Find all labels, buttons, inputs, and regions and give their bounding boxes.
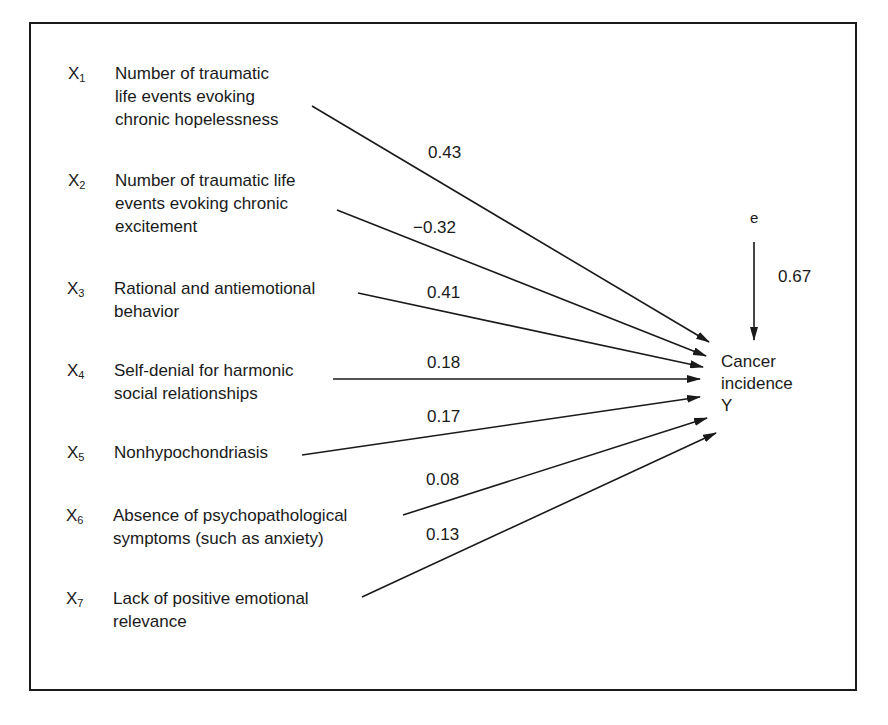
predictor-description: Absence of psychopathological symptoms (… (113, 504, 413, 550)
predictor-symbol: X1 (68, 62, 85, 90)
arrow-x6 (403, 418, 707, 515)
predictor-description: Self-denial for harmonic social relation… (114, 359, 414, 405)
predictor-symbol: X2 (68, 169, 85, 197)
predictor-symbol: X5 (67, 441, 84, 469)
outcome-line-1: Cancer (721, 351, 793, 373)
coefficient-x3: 0.41 (427, 283, 460, 303)
predictor-description: Number of traumatic life events evoking … (115, 62, 415, 131)
predictor-description: Lack of positive emotional relevance (113, 587, 413, 633)
coefficient-x2: −0.32 (413, 218, 456, 238)
coefficient-x6: 0.08 (426, 470, 459, 490)
error-term-label: e (750, 208, 758, 228)
arrow-x7 (362, 433, 716, 597)
predictor-description: Rational and antiemotional behavior (114, 277, 414, 323)
predictor-symbol: X3 (67, 277, 84, 305)
predictor-symbol: X7 (66, 587, 83, 615)
coefficient-x5: 0.17 (427, 407, 460, 427)
predictor-description: Nonhypochondriasis (114, 441, 414, 464)
coefficient-x7: 0.13 (426, 525, 459, 545)
coefficient-x1: 0.43 (428, 143, 461, 163)
outcome-line-3: Y (721, 395, 793, 417)
predictor-description: Number of traumatic life events evoking … (115, 169, 415, 238)
outcome-line-2: incidence (721, 373, 793, 395)
outcome-node: Cancer incidence Y (721, 351, 793, 417)
predictor-symbol: X4 (67, 359, 84, 387)
predictor-symbol: X6 (66, 504, 83, 532)
coefficient-x4: 0.18 (427, 353, 460, 373)
coefficient-error: 0.67 (778, 267, 811, 287)
